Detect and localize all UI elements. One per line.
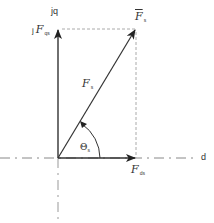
resultant-along-symbol: F — [82, 77, 90, 90]
resultant-label: Fs — [135, 11, 146, 23]
q-component-prefix: j — [32, 26, 34, 35]
q-component-label: jFqs — [32, 24, 50, 36]
d-component-label: Fds — [131, 164, 145, 176]
resultant-subscript: s — [144, 17, 147, 23]
resultant-along-subscript: s — [91, 84, 94, 90]
d-component-symbol: F — [131, 163, 139, 176]
angle-label: Θs — [80, 143, 90, 153]
q-axis-label: jq — [51, 7, 58, 16]
resultant-along-label: Fs — [82, 78, 93, 90]
q-component-symbol: F — [36, 23, 44, 36]
d-axis-label: d — [201, 153, 206, 162]
q-component-subscript: qs — [44, 30, 49, 36]
resultant-symbol: F — [135, 10, 143, 23]
angle-subscript: s — [87, 147, 90, 153]
resultant-vector — [58, 30, 135, 158]
d-component-subscript: ds — [140, 170, 145, 176]
